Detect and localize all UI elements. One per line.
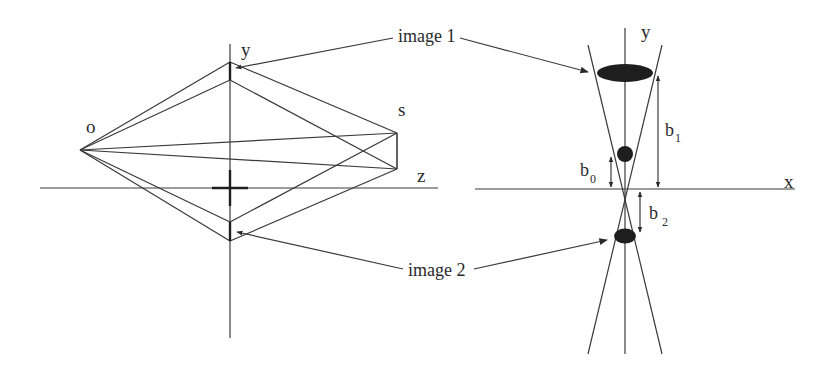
diagram-svg: o y s z image 1 image 2 y x b 0: [0, 0, 822, 368]
left-diagram: o y s z: [40, 39, 438, 338]
right-y-axis-label: y: [641, 21, 651, 42]
image1-ellipse: [597, 64, 653, 82]
svg-text:2: 2: [662, 215, 668, 229]
image1-right-leader: [460, 38, 588, 72]
right-diagram: y x b 0 b 1 b 2: [475, 21, 795, 354]
image2-right-leader: [474, 240, 607, 269]
right-x-axis-label: x: [784, 171, 794, 192]
svg-text:b: b: [649, 203, 658, 223]
z-point-label: z: [417, 165, 425, 186]
image2-ellipse: [614, 229, 636, 244]
object-circle: [617, 146, 633, 162]
image1-callout-label: image 1: [398, 26, 455, 46]
svg-text:1: 1: [675, 131, 681, 145]
origin-label: o: [86, 116, 96, 137]
svg-text:b: b: [665, 120, 674, 140]
svg-text:b: b: [580, 160, 589, 180]
b0-label: b 0: [580, 160, 596, 186]
callouts: image 1 image 2: [236, 26, 607, 280]
figure-canvas: o y s z image 1 image 2 y x b 0: [0, 0, 822, 368]
b2-label: b 2: [649, 203, 668, 229]
image2-left-leader: [237, 232, 403, 269]
svg-text:0: 0: [590, 172, 596, 186]
s-point-label: s: [398, 99, 405, 120]
image2-callout-label: image 2: [408, 260, 465, 280]
image1-left-leader: [236, 38, 393, 68]
ray-lines: [80, 62, 397, 241]
b1-label: b 1: [665, 120, 681, 145]
left-y-axis-label: y: [241, 39, 251, 60]
